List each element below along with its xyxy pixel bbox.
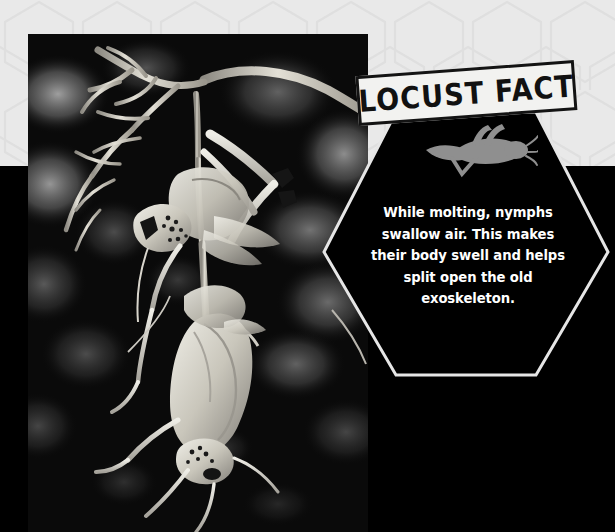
locust-fact-hexagon: While molting, nymphs swallow air. This … bbox=[318, 110, 614, 385]
locust-photograph bbox=[28, 34, 368, 532]
locust-fact-text: While molting, nymphs swallow air. This … bbox=[363, 202, 573, 310]
page-canvas: While molting, nymphs swallow air. This … bbox=[0, 0, 615, 532]
locust-silhouette-icon bbox=[418, 122, 538, 184]
